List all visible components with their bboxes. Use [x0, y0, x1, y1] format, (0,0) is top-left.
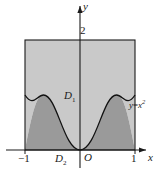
y-axis-arrow-icon — [77, 6, 82, 13]
region-label-d2-letter: D — [55, 152, 63, 164]
x-axis-arrow-icon — [139, 147, 146, 152]
curve-eq-exponent: 2 — [142, 98, 145, 105]
y-axis-label: y — [83, 1, 88, 12]
region-label-d1: D1 — [64, 90, 75, 104]
x-axis-label: x — [148, 152, 153, 163]
origin-label: O — [84, 152, 92, 163]
x-tick-label-minus-1: −1 — [18, 153, 30, 164]
figure-container: y x 2 −1 1 O D1 D2 y=x2 — [0, 0, 162, 176]
region-label-d1-letter: D — [64, 89, 72, 101]
region-label-d2-subscript: 2 — [63, 159, 67, 167]
y-tick-label-2: 2 — [80, 25, 86, 36]
region-label-d2: D2 — [55, 153, 66, 167]
curve-equation-label: y=x2 — [129, 99, 145, 110]
x-tick-label-1: 1 — [131, 153, 137, 164]
region-label-d1-subscript: 1 — [72, 96, 76, 104]
